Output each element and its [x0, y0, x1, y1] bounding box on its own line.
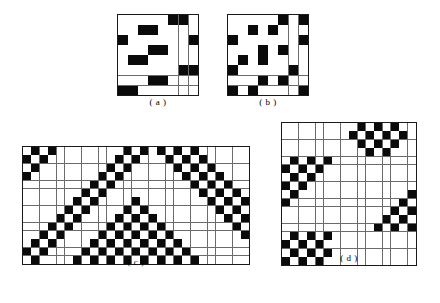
grid-cell: [65, 147, 73, 155]
grid-cell: [299, 65, 309, 75]
grid-cell: [179, 86, 189, 96]
caption-a: ( a ): [117, 96, 199, 108]
grid-cell: [191, 231, 199, 239]
grid-cell: [132, 197, 140, 205]
grid-cell: [299, 207, 307, 215]
grid-cell: [383, 165, 391, 173]
grid-cell: [289, 25, 299, 35]
grid-cell: [124, 223, 132, 231]
grid-cell: [374, 140, 382, 148]
grid-cell: [391, 232, 399, 240]
grid-cell: [258, 65, 268, 75]
grid-cell: [107, 248, 115, 256]
grid-cell: [115, 155, 123, 163]
grid-cell: [228, 35, 238, 45]
grid-cell: [140, 239, 148, 247]
grid-cell: [82, 214, 90, 222]
grid-cell: [48, 231, 56, 239]
grid-cell: [233, 214, 241, 222]
grid-cell: [199, 155, 207, 163]
grid-cell: [157, 147, 165, 155]
grid-cell: [391, 207, 399, 215]
grid-cell: [149, 147, 157, 155]
grid-cell: [408, 240, 416, 248]
grid-cell: [99, 189, 107, 197]
grid-cell: [316, 140, 324, 148]
grid-cell: [23, 189, 31, 197]
grid-cell: [23, 147, 31, 155]
grid-cell: [299, 76, 309, 86]
grid-cell: [233, 172, 241, 180]
grid-cell: [132, 231, 140, 239]
grid-cell: [182, 206, 190, 214]
grid-cell: [140, 181, 148, 189]
grid-cell: [174, 197, 182, 205]
grid-cell: [358, 182, 366, 190]
grid-cell: [199, 248, 207, 256]
figure-panel-d: ( d ): [281, 122, 417, 266]
grid-cell: [358, 215, 366, 223]
grid-cell: [31, 155, 39, 163]
grid-cell: [383, 123, 391, 131]
grid-cell: [65, 206, 73, 214]
grid-cell: [208, 189, 216, 197]
grid-cell: [208, 206, 216, 214]
grid-a: [117, 14, 199, 96]
grid-cell: [48, 214, 56, 222]
grid-cell: [316, 173, 324, 181]
grid-cell: [73, 206, 81, 214]
grid-cell: [182, 155, 190, 163]
grid-cell: [174, 231, 182, 239]
grid-cell: [383, 140, 391, 148]
grid-cell: [316, 182, 324, 190]
grid-cell: [307, 131, 315, 139]
grid-cell: [241, 172, 249, 180]
grid-cell: [65, 189, 73, 197]
grid-cell: [290, 123, 298, 131]
grid-cell: [299, 35, 309, 45]
grid-cell: [174, 172, 182, 180]
grid-cell: [57, 206, 65, 214]
grid-cell: [90, 155, 98, 163]
grid-cell: [408, 232, 416, 240]
grid-cell: [179, 55, 189, 65]
grid-cell: [138, 25, 148, 35]
grid-cell: [349, 173, 357, 181]
grid-cell: [128, 15, 138, 25]
grid-cell: [99, 172, 107, 180]
grid-cell: [124, 189, 132, 197]
grid-cell: [366, 157, 374, 165]
grid-cell: [90, 189, 98, 197]
grid-cell: [23, 155, 31, 163]
grid-cell: [374, 148, 382, 156]
grid-cell: [278, 65, 288, 75]
grid-cell: [324, 148, 332, 156]
grid-cell: [148, 76, 158, 86]
grid-cell: [282, 165, 290, 173]
grid-cell: [224, 155, 232, 163]
grid-cell: [366, 140, 374, 148]
grid-cell: [166, 239, 174, 247]
grid-cell: [391, 199, 399, 207]
figure-panel-c: ( c ): [22, 146, 250, 265]
grid-cell: [128, 35, 138, 45]
grid-cell: [290, 190, 298, 198]
grid-cell: [118, 25, 128, 35]
grid-cell: [157, 172, 165, 180]
grid-cell: [216, 214, 224, 222]
grid-cell: [82, 248, 90, 256]
grid-cell: [299, 165, 307, 173]
grid-cell: [278, 15, 288, 25]
grid-cell: [374, 215, 382, 223]
grid-cell: [366, 190, 374, 198]
grid-cell: [115, 147, 123, 155]
grid-cell: [128, 55, 138, 65]
grid-cell: [391, 240, 399, 248]
grid-cell: [128, 86, 138, 96]
grid-cell: [140, 155, 148, 163]
grid-cell: [248, 35, 258, 45]
grid-cell: [149, 181, 157, 189]
grid-cell: [290, 182, 298, 190]
grid-cell: [132, 223, 140, 231]
grid-cell: [216, 147, 224, 155]
